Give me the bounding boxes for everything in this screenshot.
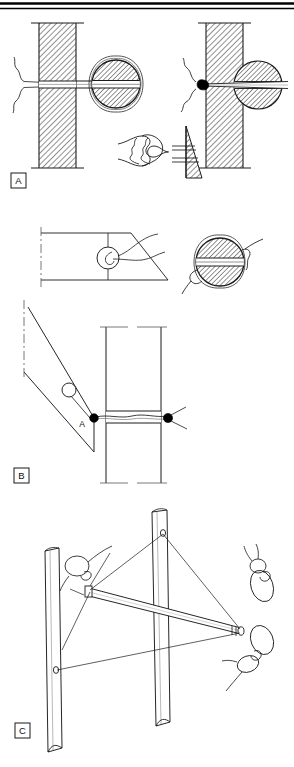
figure-root: A — [0, 0, 294, 767]
panel-label-b-text: B — [18, 470, 25, 481]
left-post — [45, 547, 62, 752]
left-bone-wall — [31, 23, 84, 168]
right-suture-knot — [197, 80, 208, 90]
panel-label-b: B — [14, 468, 29, 483]
panel-label-c: C — [15, 723, 30, 738]
point-label-a-text: A — [79, 419, 85, 429]
plane-drill-circle — [97, 247, 119, 269]
panel-label-a: A — [11, 173, 26, 188]
tunnel-suture — [96, 411, 167, 423]
vertical-tunnel-tube — [100, 327, 167, 483]
figure-canvas: A — [0, 0, 294, 767]
panel-label-c-text: C — [19, 725, 26, 736]
point-label-a: A — [79, 419, 85, 429]
knot-left — [90, 414, 99, 423]
panel-label-a-text: A — [15, 175, 22, 186]
